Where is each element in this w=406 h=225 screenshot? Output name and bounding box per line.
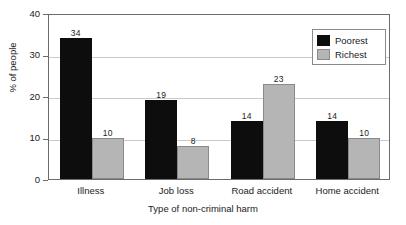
legend-item-label: Poorest <box>335 35 368 46</box>
bar-value-label: 14 <box>242 111 252 121</box>
bar-value-label: 10 <box>103 128 113 138</box>
legend-item-richest: Richest <box>317 47 381 61</box>
bar-richest-road-accident: 23 <box>263 84 295 179</box>
bar-chart-figure: 40 30 20 10 0 341019814231410 IllnessJob… <box>0 0 406 225</box>
y-axis-tick-label: 40 <box>18 8 40 19</box>
legend: Poorest Richest <box>312 29 386 65</box>
bar-value-label: 10 <box>359 128 369 138</box>
bar-value-label: 34 <box>71 28 81 38</box>
bar-poorest-road-accident: 14 <box>231 121 263 179</box>
x-axis-label-road-accident: Road accident <box>219 185 305 196</box>
y-axis-tick-label: 10 <box>18 132 40 143</box>
gray-square-swatch-icon <box>317 49 330 60</box>
x-axis-label-home-accident: Home accident <box>305 185 391 196</box>
black-square-swatch-icon <box>317 35 330 46</box>
x-axis-title: Type of non-criminal harm <box>0 203 406 214</box>
y-axis-tick-label: 30 <box>18 49 40 60</box>
x-axis-label-job-loss: Job loss <box>134 185 220 196</box>
bar-poorest-home-accident: 14 <box>316 121 348 179</box>
bar-value-label: 19 <box>156 90 166 100</box>
bar-richest-job-loss: 8 <box>177 146 209 179</box>
bar-value-label: 14 <box>327 111 337 121</box>
bar-poorest-illness: 34 <box>60 38 92 179</box>
bar-richest-illness: 10 <box>92 138 124 180</box>
bar-richest-home-accident: 10 <box>348 138 380 180</box>
y-axis-title: % of people <box>7 13 18 123</box>
y-axis-tick-label: 0 <box>18 174 40 185</box>
gridline <box>49 98 389 99</box>
bar-poorest-job-loss: 19 <box>145 100 177 179</box>
bar-value-label: 8 <box>191 136 196 146</box>
y-axis-tick-label: 20 <box>18 91 40 102</box>
x-axis-label-illness: Illness <box>48 185 134 196</box>
legend-item-label: Richest <box>335 49 367 60</box>
y-axis-tick-mark <box>43 180 48 181</box>
bar-value-label: 23 <box>274 74 284 84</box>
legend-item-poorest: Poorest <box>317 33 381 47</box>
